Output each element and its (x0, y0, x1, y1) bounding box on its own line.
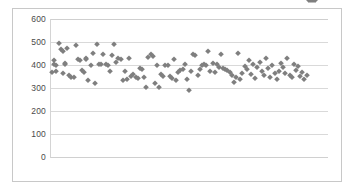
data-point (285, 56, 290, 61)
data-point (65, 45, 70, 50)
data-point (281, 64, 286, 69)
data-point (150, 53, 155, 58)
data-point (171, 56, 176, 61)
data-point (268, 74, 273, 79)
data-point (152, 80, 157, 85)
data-point (186, 88, 191, 93)
data-point (195, 73, 200, 78)
data-point (127, 56, 132, 61)
data-point (90, 50, 95, 55)
data-point (157, 85, 162, 90)
data-point (206, 49, 211, 54)
data-point (161, 73, 166, 78)
scatter-chart: 600 500 400 300 200 100 0 (0, 0, 354, 191)
data-point (144, 85, 149, 90)
data-point (139, 66, 144, 71)
data-point (82, 69, 87, 74)
data-point (118, 56, 123, 61)
data-point (236, 50, 241, 55)
data-point (109, 52, 114, 57)
data-point (184, 76, 189, 81)
plot-area (0, 0, 354, 191)
data-point (71, 75, 76, 80)
data-point (289, 75, 294, 80)
data-point (112, 42, 117, 47)
data-point (165, 63, 170, 68)
data-point (154, 62, 159, 67)
data-point (101, 51, 106, 56)
data-point (73, 42, 78, 47)
data-point (54, 62, 59, 67)
data-point (257, 60, 262, 65)
data-point (240, 70, 245, 75)
data-point (238, 76, 243, 81)
data-point (231, 80, 236, 85)
data-point (88, 62, 93, 67)
data-point (54, 69, 59, 74)
data-point (142, 74, 147, 79)
data-point (122, 68, 127, 73)
data-point (276, 68, 281, 73)
data-point (174, 78, 179, 83)
data-point (263, 56, 268, 61)
data-point (244, 66, 249, 71)
data-point (212, 69, 217, 74)
data-point (189, 69, 194, 74)
data-point (296, 63, 301, 68)
data-point (77, 58, 82, 63)
data-point (261, 73, 266, 78)
data-point (274, 77, 279, 82)
data-point (255, 65, 260, 70)
data-point (193, 53, 198, 58)
data-point (135, 76, 140, 81)
data-point (86, 77, 91, 82)
data-point (266, 66, 271, 71)
data-point (56, 41, 61, 46)
data-point (60, 70, 65, 75)
data-point (107, 69, 112, 74)
data-point (204, 62, 209, 67)
data-point (270, 62, 275, 67)
data-point (92, 80, 97, 85)
data-point (253, 75, 258, 80)
data-point (219, 52, 224, 57)
data-point (95, 42, 100, 47)
